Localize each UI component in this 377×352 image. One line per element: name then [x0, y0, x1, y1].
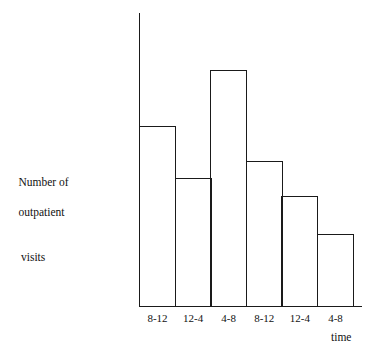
x-tick-label: 4-8: [210, 311, 247, 325]
y-axis-label-line-1: Number of: [19, 176, 69, 188]
bar: [317, 234, 354, 307]
x-tick-label: 8-12: [139, 311, 176, 325]
bar: [281, 196, 318, 307]
bar: [246, 161, 283, 307]
x-tick-label: 4-8: [317, 311, 354, 325]
y-axis-label-line-3: visits: [7, 250, 127, 265]
bar: [210, 70, 247, 307]
x-tick-label: 12-4: [175, 311, 212, 325]
chart-root: Number of outpatient visits 8-1212-44-88…: [0, 0, 377, 352]
x-tick-label: 12-4: [281, 311, 318, 325]
y-axis-label-line-2: outpatient: [19, 206, 65, 218]
bar: [175, 178, 212, 307]
x-axis-tick-labels: 8-1212-44-88-1212-44-8: [139, 311, 362, 327]
y-axis-label: Number of outpatient visits: [7, 160, 127, 295]
x-tick-label: 8-12: [246, 311, 283, 325]
bar-series: [139, 13, 362, 307]
bar: [139, 126, 176, 307]
plot-area: [139, 13, 362, 307]
x-axis-label: time: [331, 330, 351, 344]
